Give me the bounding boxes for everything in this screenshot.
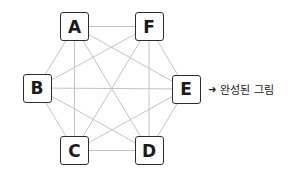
node-d-label: D: [142, 141, 156, 161]
edge-f-b: [37, 27, 149, 89]
node-a: A: [60, 12, 89, 41]
node-b: B: [23, 74, 52, 103]
node-f: F: [135, 12, 164, 41]
node-c-label: C: [68, 141, 80, 161]
edge-e-c: [75, 89, 187, 151]
edge-b-d: [37, 88, 149, 151]
node-b-label: B: [31, 78, 44, 98]
node-a-label: A: [68, 17, 81, 37]
caption-text: 완성된 그림: [220, 81, 274, 97]
arrow-right-icon: ➜: [208, 84, 216, 95]
edge-b-e: [37, 88, 186, 89]
node-d: D: [135, 136, 164, 165]
node-f-label: F: [143, 17, 155, 37]
node-c: C: [60, 136, 89, 165]
node-e-label: E: [180, 79, 192, 99]
caption: ➜ 완성된 그림: [208, 81, 274, 97]
node-e: E: [172, 75, 201, 104]
